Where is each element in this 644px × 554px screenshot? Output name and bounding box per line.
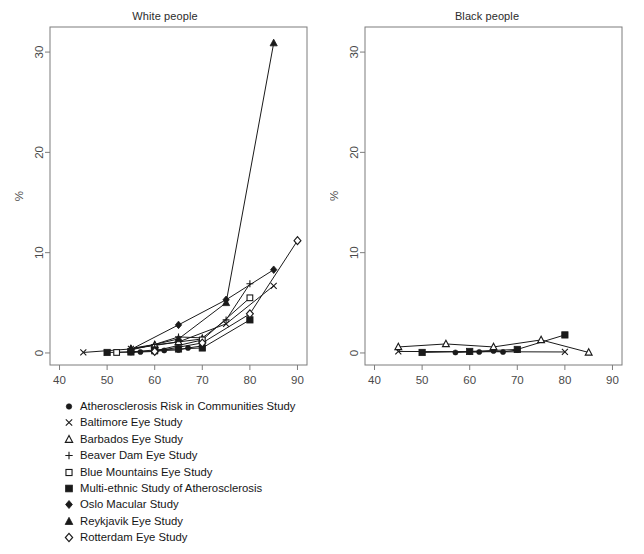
open-square-marker [114,350,120,356]
filled-diamond-marker [175,321,181,329]
x-tick-label: 40 [53,374,66,386]
y-tick-label: 10 [33,246,45,259]
x-tick-label: 60 [148,374,161,386]
filled-square-marker [66,485,73,492]
x-tick-label: 90 [291,374,304,386]
figure-root: White people 4050607080900102030% Black … [0,0,644,554]
plot-area-white: 4050607080900102030% [0,0,330,400]
filled-triangle-marker [175,335,182,342]
legend-item-label: Barbados Eye Study [80,432,183,446]
filled-circle-marker [138,349,143,354]
series-line [131,284,250,349]
figure-caption [0,543,644,554]
filled-triangle-icon [58,514,80,528]
open-square-marker [247,295,253,301]
x-tick-label: 40 [368,374,381,386]
y-tick-label: 20 [33,146,45,159]
open-triangle-marker [65,435,72,442]
series-line [131,43,274,350]
open-square-icon [58,465,80,479]
filled-square-marker [467,348,473,354]
filled-square-marker [514,346,520,352]
open-triangle-marker [538,336,545,342]
legend-item-label: Reykjavik Eye Study [80,514,183,528]
y-tick-label: 0 [33,350,45,356]
legend-item[interactable]: Multi-ethnic Study of Atherosclerosis [58,480,262,496]
x-cross-marker [66,420,72,426]
legend-item[interactable]: Barbados Eye Study [58,431,183,447]
legend-item[interactable]: Reykjavik Eye Study [58,513,183,529]
x-tick-label: 50 [416,374,429,386]
filled-diamond-marker [270,266,276,274]
legend-item-label: Multi-ethnic Study of Atherosclerosis [80,481,262,495]
y-tick-label: 30 [33,46,45,59]
open-square-marker [66,469,72,475]
x-tick-label: 60 [463,374,476,386]
y-axis-label: % [330,191,340,201]
legend-item[interactable]: Oslo Macular Study [58,496,179,512]
plus-icon [58,448,80,462]
x-tick-label: 70 [196,374,209,386]
x-cross-marker [271,283,277,289]
legend-item-label: Oslo Macular Study [80,497,179,511]
plot-area-black: 4050607080900102030% [330,0,644,400]
filled-square-marker [175,346,181,352]
filled-square-marker [104,349,110,355]
open-triangle-icon [58,432,80,446]
legend-item-label: Blue Mountains Eye Study [80,465,213,479]
y-tick-label: 0 [348,350,360,356]
filled-circle-marker [453,350,458,355]
x-tick-label: 80 [243,374,256,386]
filled-circle-marker [66,404,72,410]
x-tick-label: 80 [558,374,571,386]
filled-circle-marker [162,348,167,353]
filled-circle-marker [477,349,482,354]
chart-panel-black: Black people 4050607080900102030% [330,0,644,400]
filled-square-marker [562,332,568,338]
legend-item[interactable]: Baltimore Eye Study [58,414,182,430]
open-triangle-marker [442,340,449,346]
x-cross-icon [58,415,80,429]
plot-frame [365,27,622,365]
chart-legend: Atherosclerosis Risk in Communities Stud… [0,398,644,554]
filled-circle-marker [185,345,190,350]
y-axis-label: % [13,191,25,201]
legend-item-label: Beaver Dam Eye Study [80,448,197,462]
filled-diamond-marker [66,501,73,509]
chart-panel-white: White people 4050607080900102030% [0,0,330,400]
plus-marker [65,452,72,459]
x-tick-label: 70 [511,374,524,386]
legend-item-label: Baltimore Eye Study [80,415,182,429]
y-tick-label: 10 [348,246,360,259]
legend-item-label: Atherosclerosis Risk in Communities Stud… [80,399,295,413]
legend-item[interactable]: Blue Mountains Eye Study [58,464,213,480]
x-tick-label: 50 [101,374,114,386]
open-diamond-marker [65,534,72,542]
x-tick-label: 90 [606,374,619,386]
filled-circle-icon [58,399,80,413]
filled-square-icon [58,481,80,495]
plot-frame [50,27,307,365]
filled-circle-marker [500,349,505,354]
y-tick-label: 20 [348,146,360,159]
legend-item[interactable]: Atherosclerosis Risk in Communities Stud… [58,398,295,414]
filled-triangle-marker [65,517,73,524]
filled-triangle-marker [270,39,277,46]
filled-square-marker [419,349,425,355]
legend-item[interactable]: Beaver Dam Eye Study [58,447,197,463]
y-tick-label: 30 [348,46,360,59]
open-diamond-marker [294,237,301,245]
filled-diamond-icon [58,497,80,511]
